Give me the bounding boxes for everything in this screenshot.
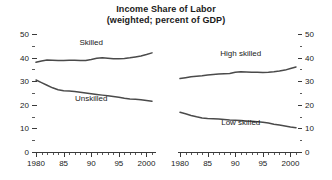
y-tick-label: 40 bbox=[305, 54, 314, 63]
chart-page: Income Share of Labor (weighted; percent… bbox=[0, 0, 332, 180]
y-tick-label: 0 bbox=[305, 148, 310, 157]
y-tick-label: 20 bbox=[20, 101, 29, 110]
series-label-low-skilled: Low skilled bbox=[221, 118, 260, 127]
chart-header: Income Share of Labor (weighted; percent… bbox=[0, 4, 332, 26]
x-tick-label: 2000 bbox=[282, 159, 300, 168]
y-tick-label: 10 bbox=[305, 124, 314, 133]
right-panel-group: 1980859095200050403020100High skilledLow… bbox=[171, 30, 314, 168]
y-tick-label: 40 bbox=[20, 54, 29, 63]
y-tick-label: 0 bbox=[25, 148, 30, 157]
series-label-unskilled: Unskilled bbox=[75, 94, 107, 103]
x-tick-label: 90 bbox=[231, 159, 240, 168]
x-tick-label: 1980 bbox=[27, 159, 45, 168]
y-tick-label: 30 bbox=[20, 77, 29, 86]
series-line-skilled bbox=[36, 53, 152, 62]
y-tick-label: 30 bbox=[305, 77, 314, 86]
chart-plot-area: 1980859095200050403020100SkilledUnskille… bbox=[0, 28, 332, 180]
x-tick-label: 85 bbox=[203, 159, 212, 168]
series-line-high-skilled bbox=[180, 67, 296, 79]
right-panel-chart: 1980859095200050403020100High skilledLow… bbox=[166, 28, 332, 180]
series-label-skilled: Skilled bbox=[79, 38, 103, 47]
x-tick-label: 95 bbox=[258, 159, 267, 168]
chart-subtitle: (weighted; percent of GDP) bbox=[0, 15, 332, 26]
x-tick-label: 1980 bbox=[171, 159, 189, 168]
y-tick-label: 10 bbox=[20, 124, 29, 133]
y-tick-label: 20 bbox=[305, 101, 314, 110]
x-tick-label: 85 bbox=[59, 159, 68, 168]
y-tick-label: 50 bbox=[20, 30, 29, 39]
chart-title: Income Share of Labor bbox=[0, 4, 332, 15]
left-panel-group: 1980859095200050403020100SkilledUnskille… bbox=[20, 30, 156, 168]
left-panel-chart: 1980859095200050403020100SkilledUnskille… bbox=[0, 28, 166, 180]
y-tick-label: 50 bbox=[305, 30, 314, 39]
x-tick-label: 2000 bbox=[138, 159, 156, 168]
x-tick-label: 90 bbox=[87, 159, 96, 168]
x-tick-label: 95 bbox=[114, 159, 123, 168]
series-label-high-skilled: High skilled bbox=[220, 49, 261, 58]
